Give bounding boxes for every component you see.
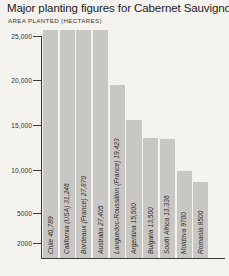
bar-label: Australia 27,405 xyxy=(97,205,104,253)
y-tick-label: 2000 xyxy=(17,240,32,247)
bar-label: Bordeaux (France) 27,870 xyxy=(80,175,87,253)
y-tick-mark xyxy=(33,125,41,126)
bar-label: Languedoc-Roussillon (France) 19,423 xyxy=(113,138,120,254)
bar-label: Argentina 15,500 xyxy=(130,203,137,254)
bar[interactable]: Languedoc-Roussillon (France) 19,423 xyxy=(110,85,125,257)
bar[interactable]: California (USA) 31,246 xyxy=(60,30,75,258)
bar[interactable]: South Africa 13,336 xyxy=(160,139,175,257)
bar-label: California (USA) 31,246 xyxy=(63,183,70,254)
plot-area: 25,00020,00015,00010,00050002000 Chile 4… xyxy=(41,30,225,259)
bar[interactable]: Bulgaria 13,500 xyxy=(143,138,158,258)
y-tick-label: 25,000 xyxy=(11,33,32,40)
bar[interactable]: Chile 40,789 xyxy=(43,30,58,258)
y-tick-mark xyxy=(33,213,41,214)
y-tick-label: 15,000 xyxy=(11,122,32,129)
bar[interactable]: Argentina 15,500 xyxy=(126,120,141,258)
bar-label: Moldova 9700 xyxy=(180,212,187,254)
y-tick-mark xyxy=(33,80,41,81)
y-tick-label: 20,000 xyxy=(11,77,32,84)
y-tick-mark xyxy=(33,36,41,37)
x-axis-line xyxy=(41,258,225,259)
y-tick-label: 10,000 xyxy=(11,167,32,174)
bar-label: South Africa 13,336 xyxy=(163,195,170,254)
y-tick-mark xyxy=(33,170,41,171)
bar[interactable]: Moldova 9700 xyxy=(177,171,192,257)
bar[interactable]: Romania 8500 xyxy=(193,182,208,258)
chart-title: Major planting figures for Cabernet Sauv… xyxy=(7,2,229,14)
bar-series: Chile 40,789California (USA) 31,246Borde… xyxy=(43,30,225,258)
bar-label: Bulgaria 13,500 xyxy=(147,207,154,254)
bar[interactable]: Bordeaux (France) 27,870 xyxy=(76,30,91,258)
chart-container: Major planting figures for Cabernet Sauv… xyxy=(0,0,229,276)
bar-label: Chile 40,789 xyxy=(46,216,53,254)
chart-subtitle: AREA PLANTED (HECTARES) xyxy=(8,17,102,24)
y-tick-label: 5000 xyxy=(17,210,32,217)
bar-label: Romania 8500 xyxy=(197,210,204,254)
bar[interactable]: Australia 27,405 xyxy=(93,30,108,258)
y-tick-mark xyxy=(33,243,41,244)
